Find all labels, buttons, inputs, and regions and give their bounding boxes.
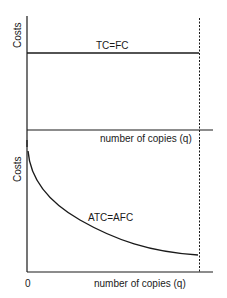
top-chart: Costs TC=FC number of copies (q) bbox=[12, 16, 213, 147]
bottom-x-axis-label: number of copies (q) bbox=[94, 278, 186, 289]
bottom-chart: Costs ATC=AFC 0 number of copies (q) bbox=[12, 140, 213, 289]
top-y-axis-label: Costs bbox=[12, 22, 23, 48]
bottom-y-axis-label: Costs bbox=[12, 156, 23, 182]
atc-afc-curve bbox=[28, 151, 198, 255]
atc-afc-label: ATC=AFC bbox=[88, 212, 133, 223]
tc-fc-label: TC=FC bbox=[96, 40, 129, 51]
top-x-axis-label: number of copies (q) bbox=[100, 133, 192, 144]
cost-curves-diagram: Costs TC=FC number of copies (q) Costs A… bbox=[0, 0, 227, 298]
origin-label: 0 bbox=[25, 278, 31, 289]
